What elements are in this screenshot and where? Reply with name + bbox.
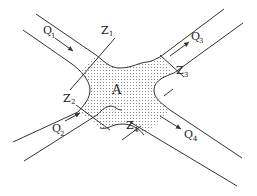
flow-q2-index: 2	[60, 130, 64, 138]
flow-q3-arrow	[170, 42, 189, 56]
road-q3-stub	[164, 89, 173, 96]
flow-q4-arrow	[160, 116, 181, 129]
boundary-z1-symbol: Z	[101, 24, 109, 37]
boundary-z1-index: 1	[109, 30, 113, 38]
boundary-z1-label: Z 1	[101, 24, 113, 38]
boundary-z4-index: 4	[134, 126, 139, 134]
road-q1-lower-edge	[23, 30, 90, 112]
flow-q4-symbol: Q	[184, 128, 193, 141]
area-a-label: A	[111, 82, 122, 97]
flow-q3-label: Q 3	[191, 30, 203, 45]
intersection-diagram: A Q 1 Q 2 Q 3 Q 4 Z 1 Z 2 Z 3 Z 4	[0, 0, 257, 196]
boundary-z3-symbol: Z	[176, 64, 184, 77]
road-q1-upper-edge	[36, 14, 120, 68]
flow-q2-label: Q 2	[52, 122, 64, 138]
flow-q1-arrow	[55, 38, 73, 51]
flow-q3-index: 3	[199, 37, 203, 45]
boundary-z4-symbol: Z	[126, 119, 134, 132]
road-q4-upper-edge	[170, 110, 242, 158]
road-q3-upper-edge	[120, 9, 224, 68]
boundary-z3-label: Z 3	[176, 64, 188, 79]
boundary-z3-index: 3	[184, 71, 188, 79]
flow-q1-index: 1	[51, 32, 55, 40]
boundary-z2-index: 2	[71, 98, 75, 106]
flow-q4-index: 4	[193, 135, 198, 143]
road-q2-upper-edge	[13, 112, 78, 142]
boundary-z2-symbol: Z	[63, 92, 71, 105]
boundary-z2-label: Z 2	[63, 92, 75, 106]
flow-q4-label: Q 4	[184, 128, 198, 143]
